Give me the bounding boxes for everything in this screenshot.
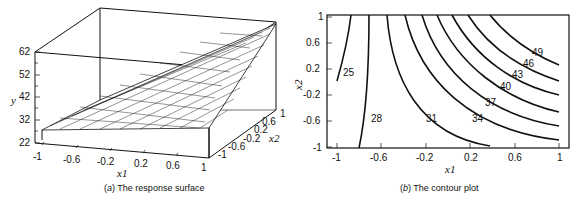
surface-caption: (a) The response surface [104, 183, 204, 193]
contour-label: 34 [472, 113, 484, 124]
surface-plot [35, 8, 276, 158]
y-tick-label: 1 [318, 11, 324, 22]
x-tick-label: 0.6 [508, 152, 522, 163]
surface-y-ticks: 62 52 42 32 22 y [10, 46, 31, 148]
y-tick-label: 0.2 [306, 63, 320, 74]
figure: 62 52 42 32 22 y -1 -0.6 -0.2 0.2 0.6 1 … [0, 0, 582, 203]
x2-tick-label: 1 [280, 108, 286, 119]
x-tick-label: -0.6 [370, 152, 388, 163]
x1-tick-label: -1 [33, 151, 42, 162]
contour-label: 37 [485, 97, 497, 108]
surface-x2-ticks: -1 -0.6 -0.2 0.2 0.6 1 x2 [218, 108, 286, 160]
x1-tick-label: 0.2 [134, 158, 148, 169]
y-tick-label: 62 [19, 46, 31, 57]
y-tick-label: 22 [19, 137, 31, 148]
contour-x-ticks: -1 -0.6 -0.2 0.2 0.6 1 [332, 152, 563, 163]
contour-lines [337, 15, 559, 148]
x-tick-label: 0.2 [464, 152, 478, 163]
x1-axis-label: x1 [116, 167, 127, 179]
y-tick-label: -0.6 [303, 115, 321, 126]
contour-label: 49 [532, 47, 544, 58]
x1-tick-label: 0.6 [166, 160, 180, 171]
x-tick-label: 1 [557, 152, 563, 163]
contour-label: 31 [426, 113, 438, 124]
y-tick-label: 42 [19, 91, 31, 102]
contour-label: 28 [371, 113, 383, 124]
x1-tick-label: -0.2 [97, 156, 115, 167]
contour-label: 25 [343, 67, 355, 78]
y-tick-label: 0.6 [306, 37, 320, 48]
x2-tick-label: -1 [218, 149, 227, 160]
x1-tick-label: 1 [201, 162, 207, 173]
contour-label: 40 [500, 81, 512, 92]
y-tick-label: -0.2 [303, 89, 321, 100]
x1-tick-label: -0.6 [63, 154, 81, 165]
contour-caption: (b) The contour plot [400, 183, 479, 193]
x-axis-label: x1 [444, 163, 455, 175]
x2-tick-label: 0.6 [262, 116, 276, 127]
contour-y-ticks: 1 0.6 0.2 -0.2 -0.6 -1 [303, 11, 324, 153]
contour-plot: 25 28 31 34 37 40 43 46 49 1 0.6 0.2 -0.… [292, 11, 569, 193]
y-axis-label: y [10, 94, 16, 106]
contour-label: 46 [523, 58, 535, 69]
y-axis-label: x2 [292, 79, 304, 91]
y-tick-label: 52 [19, 69, 31, 80]
x-tick-label: -0.2 [416, 152, 434, 163]
x2-axis-label: x2 [268, 132, 280, 144]
x-tick-label: -1 [332, 152, 341, 163]
y-tick-label: -1 [313, 142, 322, 153]
y-tick-label: 32 [19, 114, 31, 125]
contour-label: 43 [512, 69, 524, 80]
